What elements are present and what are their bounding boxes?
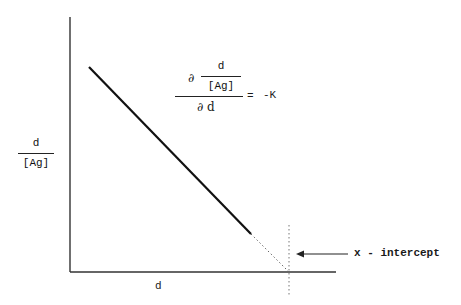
plot-canvas [0,0,461,305]
inner-numerator: d [218,61,225,76]
extrapolation-line-dotted [251,234,289,272]
arrow-left-icon [296,251,304,258]
outer-fraction-bar [175,96,243,97]
inner-denominator: [Ag] [208,77,234,92]
equation-rhs: -K [263,90,276,101]
inner-fraction: d [Ag] [201,61,241,92]
y-axis-label-denominator: [Ag] [23,154,49,169]
x-axis-label: d [155,281,162,292]
x-intercept-label: x - intercept [354,248,440,259]
y-axis-label-numerator: d [33,138,40,153]
partial-symbol-numerator: ∂ [188,72,194,84]
slope-equation: ∂ d [Ag] ∂ d = -K [175,58,285,118]
outer-denominator: ∂ d [197,101,215,113]
y-axis-label: d [Ag] [18,138,54,169]
equals-sign: = [247,91,254,102]
